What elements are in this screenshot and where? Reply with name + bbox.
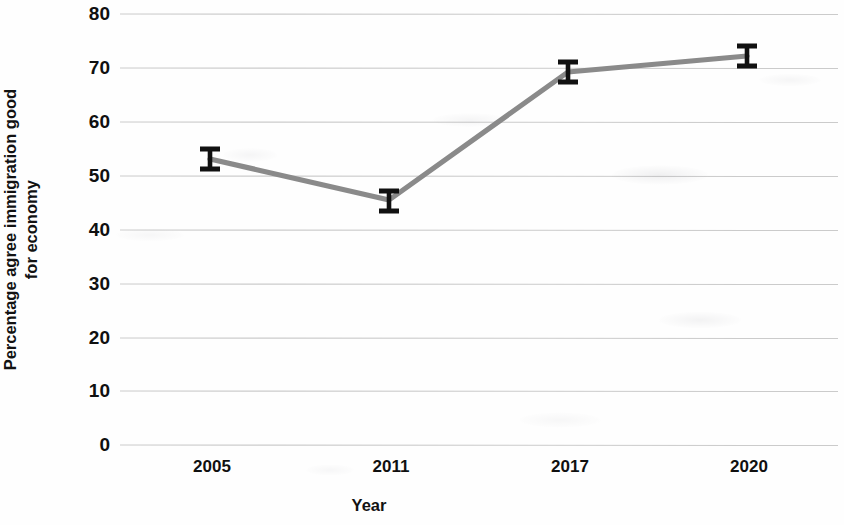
y-tick-60: 60 [54,111,110,133]
y-tick-40: 40 [54,219,110,241]
gridline-10 [120,391,838,392]
y-axis-title-line2: for economy [21,89,42,370]
gridline-80 [120,14,838,15]
gridline-30 [120,284,838,285]
x-axis-title: Year [0,496,844,515]
chart-figure: Percentage agree immigration good for ec… [0,0,844,525]
data-line [210,56,747,200]
gridlines [120,14,838,446]
y-tick-50: 50 [54,165,110,187]
series-line-percentage-agree [210,56,747,200]
gridline-50 [120,176,838,177]
x-tick-2020: 2020 [730,457,768,477]
gridline-40 [120,230,838,231]
y-tick-20: 20 [54,327,110,349]
y-tick-0: 0 [54,434,110,456]
y-tick-30: 30 [54,273,110,295]
gridline-60 [120,122,838,123]
x-tick-2017: 2017 [551,457,589,477]
y-axis-title: Percentage agree immigration good for ec… [0,0,42,460]
gridline-20 [120,338,838,339]
gridline-70 [120,68,838,69]
x-tick-2005: 2005 [193,457,231,477]
x-tick-2011: 2011 [373,457,410,477]
y-axis-tick-labels: 80 70 60 50 40 30 20 10 0 [46,0,110,470]
line-chart-svg [120,0,838,460]
plot-area [120,0,838,460]
y-axis-title-line1: Percentage agree immigration good [0,89,21,370]
error-bars [200,45,757,212]
y-tick-70: 70 [54,57,110,79]
y-tick-10: 10 [54,380,110,402]
y-tick-80: 80 [54,3,110,25]
gridline-0 [120,445,838,446]
x-axis-title-text: Year [352,496,387,514]
